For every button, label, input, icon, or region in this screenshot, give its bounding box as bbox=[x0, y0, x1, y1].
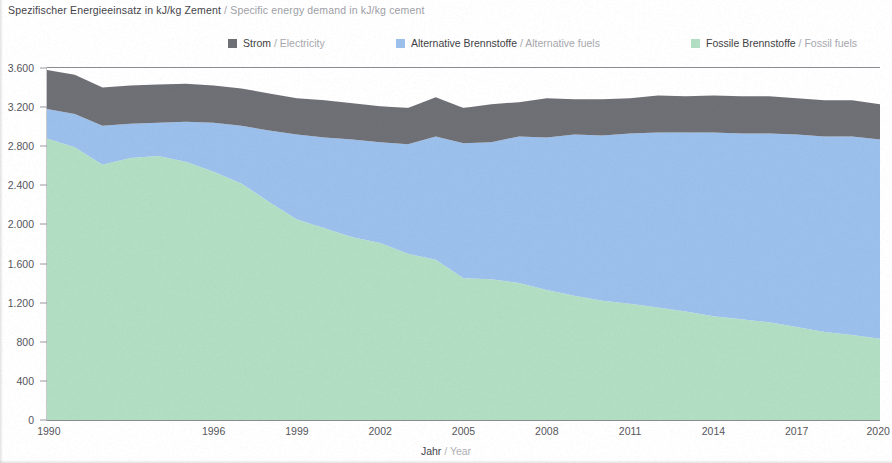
x-axis-tick-label: 2020 bbox=[866, 425, 889, 437]
x-axis-tick-label: 1990 bbox=[37, 425, 60, 437]
y-axis-tick-mark bbox=[40, 380, 47, 381]
y-axis-tick-mark bbox=[40, 302, 47, 303]
area-svg bbox=[47, 68, 880, 420]
x-axis-tick-label: 2017 bbox=[785, 425, 808, 437]
y-axis-tick-label: 2.800 bbox=[8, 140, 34, 152]
chart-title: Spezifischer Energieeinsatz in kJ/kg Zem… bbox=[8, 4, 424, 16]
x-axis-tick-label: 2008 bbox=[535, 425, 558, 437]
x-axis-tick-label: 2002 bbox=[369, 425, 392, 437]
legend-item-alternative-fuels[interactable]: Alternative Brennstoffe / Alternative fu… bbox=[396, 37, 600, 49]
legend-label-alternative-fuels: Alternative Brennstoffe / Alternative fu… bbox=[411, 37, 600, 49]
x-axis-tick-label: 2005 bbox=[452, 425, 475, 437]
y-axis-tick-mark bbox=[40, 224, 47, 225]
y-axis-tick-label: 800 bbox=[16, 336, 34, 348]
legend-label-electricity: Strom / Electricity bbox=[243, 37, 325, 49]
y-axis-tick-label: 3.200 bbox=[8, 101, 34, 113]
legend-label-fossil-fuels: Fossile Brennstoffe / Fossil fuels bbox=[706, 37, 857, 49]
legend-item-electricity[interactable]: Strom / Electricity bbox=[228, 37, 325, 49]
y-axis: 04008001.2001.6002.0002.4002.8003.2003.6… bbox=[0, 0, 47, 463]
legend-swatch-electricity bbox=[228, 39, 237, 48]
plot-bottom-border bbox=[47, 420, 880, 421]
y-axis-tick-label: 3.600 bbox=[8, 62, 34, 74]
legend-item-fossil-fuels[interactable]: Fossile Brennstoffe / Fossil fuels bbox=[691, 37, 857, 49]
y-axis-tick-label: 1.600 bbox=[8, 258, 34, 270]
y-axis-tick-label: 2.400 bbox=[8, 179, 34, 191]
y-axis-tick-mark bbox=[40, 185, 47, 186]
x-axis-tick-label: 2011 bbox=[619, 425, 642, 437]
y-axis-tick-label: 400 bbox=[16, 375, 34, 387]
chart-legend: Strom / Electricity Alternative Brennsto… bbox=[0, 33, 892, 53]
y-axis-tick-mark bbox=[40, 146, 47, 147]
chart-page: Spezifischer Energieeinsatz in kJ/kg Zem… bbox=[0, 0, 892, 463]
y-axis-tick-mark bbox=[40, 107, 47, 108]
y-axis-tick-mark bbox=[40, 420, 47, 421]
y-axis-tick-mark bbox=[40, 263, 47, 264]
y-axis-tick-label: 0 bbox=[28, 414, 34, 426]
y-axis-tick-mark bbox=[40, 68, 47, 69]
x-axis-tick-label: 2014 bbox=[702, 425, 725, 437]
legend-swatch-fossil-fuels bbox=[691, 39, 700, 48]
y-axis-tick-label: 1.200 bbox=[8, 297, 34, 309]
y-axis-tick-label: 2.000 bbox=[8, 218, 34, 230]
y-axis-tick-mark bbox=[40, 341, 47, 342]
chart-title-separator: / bbox=[221, 4, 230, 16]
stacked-area-plot bbox=[47, 68, 880, 420]
legend-swatch-alternative-fuels bbox=[396, 39, 405, 48]
x-axis-label: Jahr / Year bbox=[0, 445, 892, 457]
chart-title-en: Specific energy demand in kJ/kg cement bbox=[230, 4, 424, 16]
x-axis-tick-label: 1996 bbox=[202, 425, 225, 437]
x-axis-tick-label: 1999 bbox=[285, 425, 308, 437]
page-edge-left bbox=[0, 0, 3, 463]
